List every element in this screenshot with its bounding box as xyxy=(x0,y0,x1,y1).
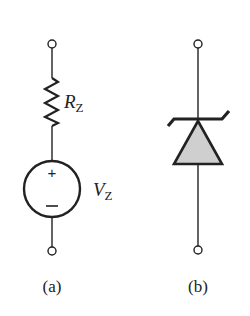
caption-b: (b) xyxy=(188,277,208,296)
caption-a: (a) xyxy=(43,277,62,296)
plus-sign: + xyxy=(48,164,57,181)
zener-diode-triangle-icon xyxy=(174,121,222,164)
zener-model-diagram: RZ + VZ (a) (b) xyxy=(0,0,250,316)
bottom-terminal-icon xyxy=(194,246,202,254)
top-terminal-icon xyxy=(194,40,202,48)
bottom-terminal-icon xyxy=(48,247,56,255)
top-terminal-icon xyxy=(48,40,56,48)
panel-b: (b) xyxy=(168,40,229,296)
resistor-label: RZ xyxy=(63,91,84,115)
panel-a: RZ + VZ (a) xyxy=(24,40,113,296)
voltage-source-label: VZ xyxy=(93,179,113,203)
resistor-icon xyxy=(45,78,58,126)
